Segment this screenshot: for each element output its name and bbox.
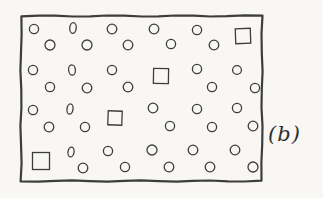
circle-marker <box>230 145 240 155</box>
ellipse-marker <box>67 147 75 158</box>
figure-label: (b) <box>268 122 301 146</box>
circle-marker <box>232 103 241 112</box>
circle-marker <box>233 66 242 75</box>
circle-marker <box>45 82 54 91</box>
square-marker <box>108 111 122 125</box>
ellipse-marker <box>69 22 76 33</box>
circle-marker <box>80 122 89 131</box>
circle-marker <box>82 83 92 93</box>
circle-marker <box>82 40 92 50</box>
square-marker <box>33 153 50 170</box>
circle-marker <box>192 25 201 34</box>
circle-marker <box>147 145 157 155</box>
figure: (b) <box>0 0 323 198</box>
circle-marker <box>148 103 158 113</box>
circle-marker <box>149 24 159 34</box>
circle-marker <box>44 122 54 132</box>
circle-marker <box>123 40 133 50</box>
circle-marker <box>123 82 133 92</box>
circle-marker <box>248 121 258 131</box>
circle-marker <box>164 162 174 172</box>
circle-marker <box>103 146 112 155</box>
circle-marker <box>107 65 116 74</box>
circle-marker <box>165 121 174 130</box>
circle-marker <box>188 145 198 155</box>
ellipse-marker <box>66 103 73 114</box>
circle-marker <box>45 40 55 50</box>
circle-marker <box>192 64 201 73</box>
circle-marker <box>28 105 37 114</box>
circle-marker <box>107 24 117 34</box>
circle-marker <box>166 39 175 48</box>
figure-canvas <box>0 0 323 198</box>
circle-marker <box>207 122 216 131</box>
circle-marker <box>29 24 38 33</box>
circle-marker <box>250 83 259 92</box>
circle-marker <box>205 162 215 172</box>
ellipse-marker <box>68 65 76 76</box>
circle-marker <box>28 65 37 74</box>
circle-marker <box>248 162 258 172</box>
circle-marker <box>192 104 201 113</box>
circle-marker <box>207 82 216 91</box>
circle-marker <box>78 163 88 173</box>
square-marker <box>235 28 251 44</box>
square-marker <box>153 68 168 83</box>
figure-border <box>20 15 262 181</box>
circle-marker <box>120 162 129 171</box>
circle-marker <box>209 40 219 50</box>
